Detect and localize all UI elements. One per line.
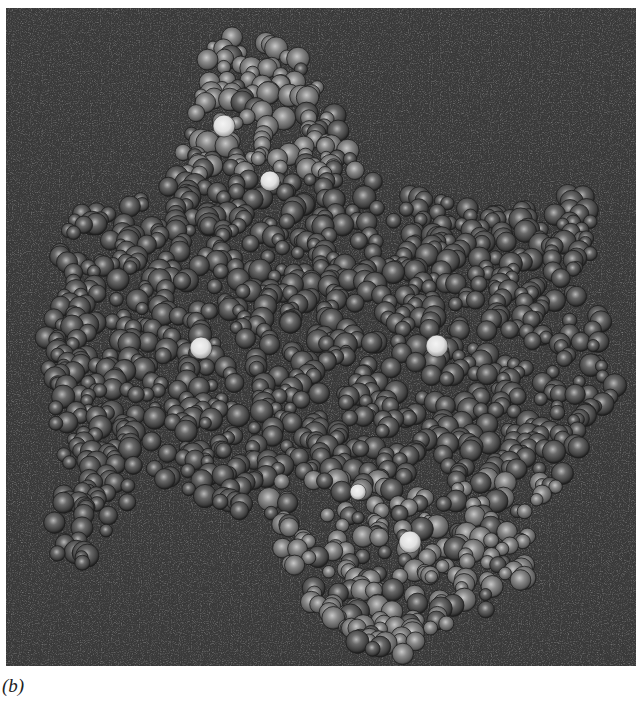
atom-sphere: [551, 269, 570, 288]
atom-sphere: [370, 528, 389, 547]
atom-sphere: [530, 494, 543, 507]
atom-sphere: [230, 502, 248, 520]
atom-sphere: [213, 494, 228, 509]
atom-sphere: [53, 492, 74, 513]
atom-sphere: [320, 508, 334, 522]
atom-sphere: [49, 401, 63, 415]
atom-sphere: [517, 504, 532, 519]
atom-sphere: [346, 161, 365, 180]
atom-sphere: [496, 232, 516, 252]
atom-sphere: [50, 546, 66, 562]
atom-sphere: [197, 49, 218, 70]
atom-sphere: [248, 422, 261, 435]
atom-sphere: [49, 416, 63, 430]
atom-sphere: [109, 292, 123, 306]
molecule-image: [6, 8, 636, 666]
atom-sphere: [542, 440, 565, 463]
atom-sphere: [291, 247, 304, 260]
atom-sphere: [566, 286, 586, 306]
highlight-atom-sphere: [399, 531, 421, 553]
atom-sphere: [99, 506, 118, 525]
atom-sphere: [524, 332, 541, 349]
atom-sphere: [352, 512, 364, 524]
atom-sphere: [346, 294, 364, 312]
atom-sphere: [565, 384, 585, 404]
atom-sphere: [63, 456, 77, 470]
atom-sphere: [350, 232, 367, 249]
atom-sphere: [471, 276, 487, 292]
atom-sphere: [550, 405, 565, 420]
atom-sphere: [338, 395, 353, 410]
atom-sphere: [175, 420, 198, 443]
highlight-atom-sphere: [190, 337, 212, 359]
atom-sphere: [136, 302, 148, 314]
atom-sphere: [386, 213, 401, 228]
atom-sphere: [436, 496, 451, 511]
highlight-atom-sphere: [260, 171, 280, 191]
atom-sphere: [124, 456, 142, 474]
atom-sphere: [477, 321, 497, 341]
atom-sphere: [173, 272, 190, 289]
atom-sphere: [317, 473, 333, 489]
molecule-render: [6, 8, 636, 666]
atom-sphere: [44, 512, 65, 533]
atom-sphere: [155, 469, 176, 490]
atom-sphere: [421, 365, 442, 386]
atom-sphere: [199, 417, 211, 429]
atom-sphere: [216, 443, 232, 459]
atom-sphere: [275, 240, 290, 255]
atom-sphere: [378, 546, 391, 559]
atom-sphere: [107, 268, 130, 291]
atom-sphere: [142, 432, 161, 451]
atom-sphere: [459, 554, 475, 570]
atom-sphere: [365, 641, 380, 656]
highlight-atom-sphere: [350, 484, 366, 500]
atom-sphere: [352, 441, 368, 457]
atom-sphere: [213, 264, 228, 279]
atom-sphere: [477, 364, 498, 385]
atom-sphere: [155, 348, 171, 364]
atom-sphere: [534, 392, 547, 405]
atom-sphere: [466, 291, 484, 309]
atom-sphere: [128, 386, 145, 403]
atom-sphere: [235, 328, 255, 348]
atom-sphere: [280, 312, 302, 334]
atom-sphere: [207, 279, 222, 294]
atom-sphere: [242, 235, 259, 252]
atom-sphere: [121, 479, 135, 493]
atom-sphere: [376, 424, 390, 438]
atom-sphere: [274, 474, 290, 490]
highlight-atom-sphere: [426, 335, 448, 357]
atom-sphere: [119, 494, 136, 511]
atom-sphere: [499, 567, 512, 580]
atom-sphere: [277, 493, 297, 513]
atom-sphere: [478, 601, 495, 618]
atom-sphere: [236, 284, 250, 298]
atom-sphere: [510, 570, 531, 591]
atom-sphere: [227, 404, 250, 427]
atom-sphere: [501, 321, 519, 339]
atom-sphere: [279, 214, 295, 230]
atom-sphere: [251, 152, 265, 166]
atom-sphere: [225, 373, 244, 392]
atom-sphere: [587, 340, 599, 352]
atom-sphere: [423, 621, 437, 635]
atom-sphere: [285, 555, 305, 575]
atom-sphere: [361, 332, 382, 353]
figure-caption: (b): [2, 675, 24, 697]
atom-sphere: [399, 202, 413, 216]
atom-sphere: [470, 473, 491, 494]
atom-sphere: [425, 571, 438, 584]
highlight-atom-sphere: [213, 115, 235, 137]
atom-sphere: [143, 407, 166, 430]
atom-sphere: [392, 643, 413, 664]
atom-sphere: [309, 383, 330, 404]
atom-sphere: [67, 226, 81, 240]
atom-sphere: [331, 481, 352, 502]
atom-sphere: [509, 388, 526, 405]
atom-sphere: [188, 105, 205, 122]
atom-sphere: [480, 589, 492, 601]
atom-sphere: [100, 524, 113, 537]
atom-sphere: [439, 616, 454, 631]
atom-sphere: [75, 555, 90, 570]
